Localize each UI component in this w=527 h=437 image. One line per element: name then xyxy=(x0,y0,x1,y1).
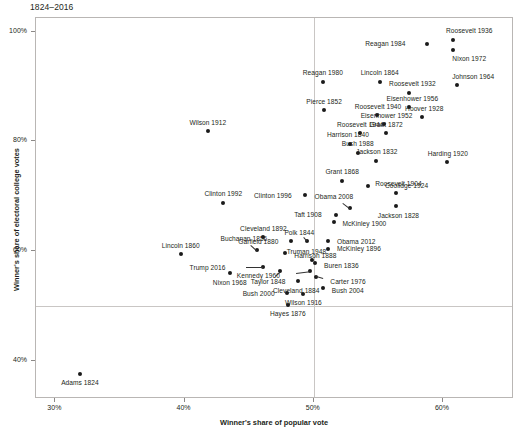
data-point-label: Carter 1976 xyxy=(330,278,365,285)
y-tick-mark xyxy=(31,140,35,141)
data-point-label: Harrison 1840 xyxy=(327,131,369,138)
data-point-label: Pierce 1852 xyxy=(306,98,342,105)
data-point[interactable] xyxy=(313,261,317,265)
data-point[interactable] xyxy=(78,372,82,376)
data-point[interactable] xyxy=(322,108,326,112)
data-point[interactable] xyxy=(384,131,388,135)
data-point-label: Clinton 1992 xyxy=(204,190,242,197)
data-point[interactable] xyxy=(321,80,325,84)
data-point-label: Roosevelt 1940 xyxy=(355,103,402,110)
data-point-label: Lincoln 1864 xyxy=(361,69,399,76)
data-point[interactable] xyxy=(366,184,370,188)
data-point[interactable] xyxy=(374,159,378,163)
data-point-label: McKinley 1896 xyxy=(337,245,381,252)
x-tick-mark xyxy=(442,398,443,402)
data-point-label: Hoover 1928 xyxy=(405,105,443,112)
data-point[interactable] xyxy=(332,220,336,224)
plot-area: Roosevelt 1936Nixon 1972Reagan 1984Johns… xyxy=(35,17,513,398)
reference-line-horizontal xyxy=(36,306,512,307)
data-point[interactable] xyxy=(206,129,210,133)
data-point-label: Roosevelt 1904 xyxy=(375,180,422,187)
data-point[interactable] xyxy=(303,193,307,197)
x-tick-mark xyxy=(54,398,55,402)
x-tick-label: 30% xyxy=(47,404,61,411)
data-point-label: Obama 2012 xyxy=(337,238,376,245)
data-point-label: Wilson 1912 xyxy=(189,119,226,126)
data-point[interactable] xyxy=(445,160,449,164)
data-point-label: Bush 2004 xyxy=(332,287,364,294)
data-point-label: Reagan 1980 xyxy=(303,69,343,76)
data-point[interactable] xyxy=(321,286,325,290)
data-point[interactable] xyxy=(394,204,398,208)
y-tick-mark xyxy=(31,31,35,32)
data-point-label: Bush 1988 xyxy=(342,140,374,147)
data-point-label: Eisenhower 1952 xyxy=(361,112,413,119)
y-axis-title: Winner's share of electoral college vote… xyxy=(12,148,21,291)
data-point-label: Hayes 1876 xyxy=(270,310,306,317)
x-tick-label: 40% xyxy=(177,404,191,411)
data-point-label: Clinton 1996 xyxy=(254,192,292,199)
data-point[interactable] xyxy=(326,239,330,243)
data-point-label: Taylor 1848 xyxy=(251,278,286,285)
data-point[interactable] xyxy=(420,115,424,119)
y-tick-mark xyxy=(31,360,35,361)
data-point-label: McKinley 1900 xyxy=(342,220,386,227)
data-point-label: Buren 1836 xyxy=(324,262,359,269)
data-point-label: Reagan 1984 xyxy=(365,40,405,47)
y-tick-label: 100% xyxy=(3,27,27,34)
data-point-label: Grant 1872 xyxy=(369,121,403,128)
y-tick-mark xyxy=(31,250,35,251)
data-point-label: Buchanan 1856 xyxy=(220,235,267,242)
data-point-label: Eisenhower 1956 xyxy=(386,95,438,102)
y-tick-label: 40% xyxy=(3,356,27,363)
data-point[interactable] xyxy=(286,303,290,307)
x-axis-title: Winner's share of popular vote xyxy=(220,418,328,427)
data-point-label: Roosevelt 1932 xyxy=(389,80,436,87)
data-point-label: Cleveland 1884 xyxy=(273,287,320,294)
data-point-label: Polk 1844 xyxy=(284,229,314,236)
data-point[interactable] xyxy=(425,42,429,46)
data-point-label: Nixon 1972 xyxy=(452,55,486,62)
data-point[interactable] xyxy=(378,80,382,84)
data-point-label: Taft 1908 xyxy=(294,211,322,218)
y-tick-label: 80% xyxy=(3,136,27,143)
data-point-label: Trump 2016 xyxy=(190,264,226,271)
x-tick-label: 60% xyxy=(435,404,449,411)
data-point[interactable] xyxy=(301,292,305,296)
data-point[interactable] xyxy=(394,191,398,195)
data-point[interactable] xyxy=(179,252,183,256)
data-point-label: Obama 2008 xyxy=(315,193,354,200)
data-point-label: Johnson 1964 xyxy=(452,73,494,80)
x-tick-mark xyxy=(313,398,314,402)
x-tick-label: 50% xyxy=(306,404,320,411)
data-point-label: Bush 2000 xyxy=(243,290,275,297)
data-point-label: Truman 1948 xyxy=(287,248,327,255)
data-point-label: Cleveland 1892 xyxy=(240,225,287,232)
label-leader-line xyxy=(246,267,263,268)
data-point[interactable] xyxy=(289,239,293,243)
data-point[interactable] xyxy=(296,279,300,283)
data-point-label: Nixon 1968 xyxy=(213,279,247,286)
data-point[interactable] xyxy=(451,38,455,42)
data-point-label: Grant 1868 xyxy=(325,168,359,175)
data-point[interactable] xyxy=(334,213,338,217)
data-point-label: Harding 1920 xyxy=(428,150,468,157)
data-point[interactable] xyxy=(285,291,289,295)
electoral-scatter-chart: 1824–2016 Roosevelt 1936Nixon 1972Reagan… xyxy=(0,0,527,437)
data-point-label: Roosevelt 1936 xyxy=(446,27,493,34)
x-tick-mark xyxy=(184,398,185,402)
data-point-label: Lincoln 1860 xyxy=(162,242,200,249)
data-point-label: Jackson 1832 xyxy=(356,148,397,155)
data-point-label: Adams 1824 xyxy=(61,379,99,386)
data-point[interactable] xyxy=(451,48,455,52)
data-point[interactable] xyxy=(340,179,344,183)
data-point-label: Jackson 1828 xyxy=(378,212,419,219)
data-point[interactable] xyxy=(221,201,225,205)
data-point-label: Wilson 1916 xyxy=(285,299,322,306)
chart-title: 1824–2016 xyxy=(30,2,73,12)
data-point[interactable] xyxy=(455,83,459,87)
data-point[interactable] xyxy=(228,271,232,275)
